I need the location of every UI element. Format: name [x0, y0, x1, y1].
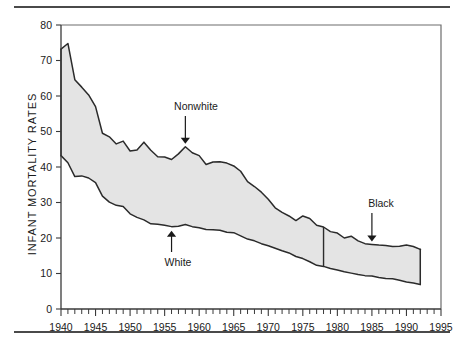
chart-plot-area: 0102030405060708019401945195019551960196… [0, 0, 461, 344]
annotation-arrow-head-black [367, 235, 376, 241]
x-tick-label: 1990 [395, 321, 419, 333]
annotation-label-white: White [165, 256, 192, 268]
x-tick-label: 1955 [153, 321, 177, 333]
y-tick-label: 60 [40, 90, 52, 102]
annotation-label-nonwhite: Nonwhite [174, 100, 218, 112]
y-tick-label: 0 [46, 303, 52, 315]
data-band-group [61, 43, 420, 284]
y-tick-label: 70 [40, 54, 52, 66]
y-tick-label: 10 [40, 267, 52, 279]
x-tick-label: 1980 [326, 321, 350, 333]
chart-figure: INFANT MORTALITY RATES 01020304050607080… [0, 0, 461, 344]
area-band [61, 43, 420, 284]
annotation-label-black: Black [368, 197, 394, 209]
annotation-arrow-head-nonwhite [181, 138, 190, 144]
x-tick-label: 1950 [118, 321, 142, 333]
y-tick-label: 20 [40, 232, 52, 244]
y-tick-label: 50 [40, 125, 52, 137]
y-tick-label: 30 [40, 196, 52, 208]
x-tick-label: 1940 [49, 321, 73, 333]
x-tick-label: 1995 [429, 321, 453, 333]
x-tick-label: 1945 [84, 321, 108, 333]
x-tick-label: 1965 [222, 321, 246, 333]
y-tick-label: 80 [40, 19, 52, 31]
x-tick-label: 1970 [257, 321, 281, 333]
y-tick-label: 40 [40, 161, 52, 173]
x-tick-label: 1960 [188, 321, 212, 333]
x-tick-label: 1985 [360, 321, 384, 333]
annotation-arrow-head-white [167, 231, 176, 237]
x-tick-label: 1975 [291, 321, 315, 333]
